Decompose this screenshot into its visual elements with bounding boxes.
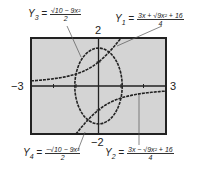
ymax-label: 2 (95, 25, 101, 36)
equation-y4: Y4 = −√10 − 9x²2 (23, 146, 80, 161)
equation-y1: Y1 = 3x + √9x² + 164 (115, 12, 184, 27)
ymin-label: −2 (91, 137, 104, 148)
equation-y2: Y2 = 3x − √9x² + 164 (105, 146, 174, 161)
equation-y3: Y3 = √10 − 9x²2 (28, 7, 81, 22)
xmax-label: 3 (170, 81, 176, 92)
xmin-label: −3 (11, 81, 24, 92)
